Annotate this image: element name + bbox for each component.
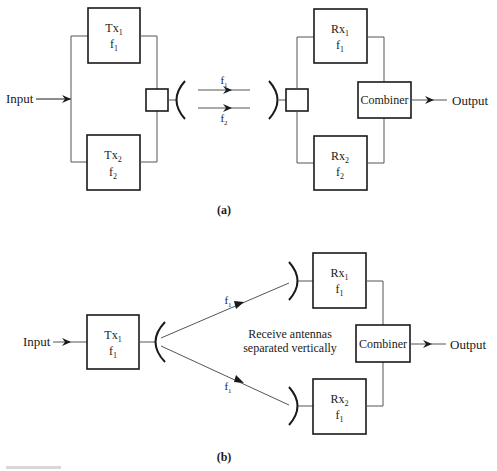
annotation-line2: separated vertically bbox=[243, 341, 337, 355]
tx-coupler-box-a bbox=[146, 89, 168, 111]
link-lower-arrow-icon bbox=[234, 375, 244, 383]
rx1-output-wire-a bbox=[367, 37, 384, 82]
rx1-block-a: Rx1 f1 bbox=[314, 9, 367, 63]
rx1-input-wire-a bbox=[297, 37, 314, 89]
rx1-block-b: Rx1 f1 bbox=[313, 253, 366, 308]
link-upper-arrow-icon bbox=[234, 301, 244, 309]
diagram-a: Input Tx1 f1 Tx2 f2 f1 f2 bbox=[6, 8, 489, 217]
rx2-block-a: Rx2 f2 bbox=[314, 136, 367, 190]
rx2-antenna-dish-b bbox=[289, 387, 298, 425]
input-label-a: Input bbox=[6, 91, 34, 106]
caption-b: (b) bbox=[217, 450, 232, 464]
rx2-block-b: Rx2 f1 bbox=[313, 379, 366, 434]
rx2-input-wire-a bbox=[297, 111, 314, 163]
tx2-block-a: Tx2 f2 bbox=[87, 135, 140, 190]
link-f1-label-a: f1 bbox=[220, 74, 228, 89]
rx-antenna-dish-a bbox=[269, 81, 278, 119]
rx1-output-wire-b bbox=[366, 281, 383, 325]
svg-text:Combiner: Combiner bbox=[361, 93, 409, 107]
rx2-output-wire-b bbox=[366, 362, 383, 406]
caption-a: (a) bbox=[217, 203, 231, 217]
annotation-line1: Receive antennas bbox=[248, 327, 332, 341]
combiner-block-b: Combiner bbox=[356, 325, 410, 362]
tx-antenna-dish-b bbox=[156, 322, 166, 362]
tx2-output-wire-a bbox=[140, 111, 157, 162]
diagram-b: Input Tx1 f1 f1 f1 Receive antennas sepa… bbox=[23, 253, 487, 464]
link-upper-label-b: f1 bbox=[224, 294, 232, 309]
output-label-a: Output bbox=[452, 93, 489, 108]
cropped-caption-mark bbox=[6, 466, 61, 469]
link-lower-label-b: f1 bbox=[224, 380, 232, 395]
output-label-b: Output bbox=[450, 337, 487, 352]
combiner-block-a: Combiner bbox=[358, 82, 411, 118]
tx-antenna-dish-a bbox=[177, 81, 186, 119]
tx1-block-a: Tx1 f1 bbox=[88, 8, 140, 63]
tx1-output-wire-a bbox=[140, 36, 157, 89]
input-label-b: Input bbox=[23, 334, 51, 349]
rx-splitter-box-a bbox=[286, 89, 308, 111]
input-split-wire-a bbox=[71, 36, 88, 162]
svg-text:Combiner: Combiner bbox=[359, 337, 407, 351]
link-f2-label-a: f2 bbox=[220, 112, 228, 127]
rx1-antenna-dish-b bbox=[289, 262, 298, 300]
rx2-output-wire-a bbox=[367, 118, 384, 163]
tx1-block-b: Tx1 f1 bbox=[87, 315, 139, 369]
diversity-diagram: Input Tx1 f1 Tx2 f2 f1 f2 bbox=[0, 0, 497, 471]
